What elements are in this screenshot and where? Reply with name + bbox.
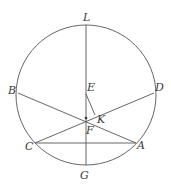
label-A: A	[137, 140, 145, 151]
label-F: F	[86, 125, 94, 136]
label-L: L	[83, 12, 90, 23]
label-C: C	[25, 141, 33, 152]
segment-BA	[18, 93, 136, 143]
label-E: E	[87, 82, 95, 93]
label-D: D	[155, 82, 164, 93]
label-B: B	[8, 85, 16, 96]
segment-EK	[86, 94, 95, 115]
label-K: K	[97, 114, 105, 125]
geometry-diagram	[0, 0, 171, 186]
label-G: G	[80, 170, 89, 181]
point-F-dot	[85, 117, 88, 120]
segment-DC	[35, 93, 154, 143]
